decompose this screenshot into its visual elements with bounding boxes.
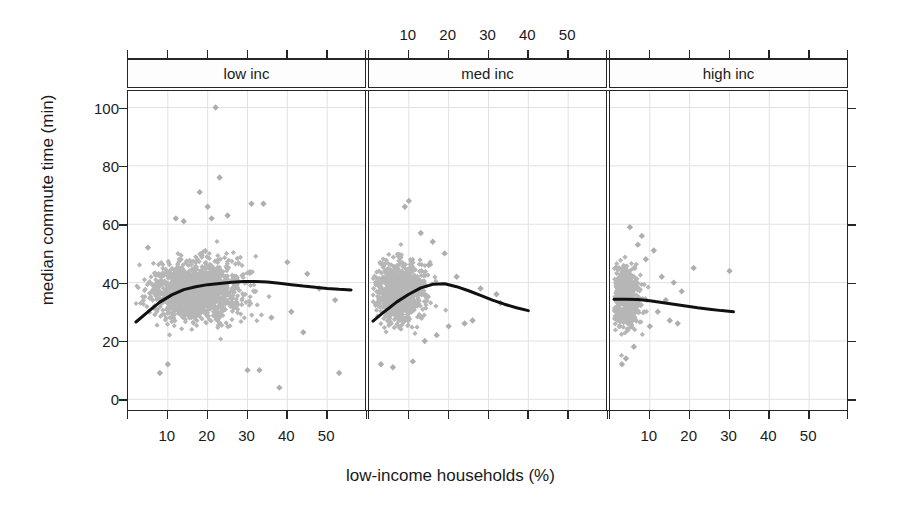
bottom-tick-mark [768, 411, 769, 419]
y-tick-mark-right [848, 166, 856, 167]
top-tick-mark [609, 50, 610, 58]
panel-low-inc [127, 90, 366, 411]
top-tick-mark [527, 50, 528, 58]
top-x-tick-label: 50 [559, 26, 576, 43]
top-x-tick-label: 40 [519, 26, 536, 43]
bottom-x-tick-label: 10 [158, 427, 175, 444]
top-tick-mark [649, 50, 650, 58]
bottom-tick-mark [609, 411, 610, 419]
top-axis-line [127, 58, 848, 60]
panel-strip-high-inc: high inc [609, 58, 848, 88]
bottom-tick-mark [847, 411, 848, 419]
y-tick-mark-left [119, 108, 127, 109]
panel-med-inc [368, 90, 607, 411]
bottom-tick-mark [247, 411, 248, 419]
bottom-tick-mark [408, 411, 409, 419]
top-tick-mark [729, 50, 730, 58]
top-tick-mark [368, 50, 369, 58]
bottom-x-axis: 10203040501020304050 [0, 427, 901, 449]
y-tick-mark-left [119, 166, 127, 167]
y-tick-label: 40 [81, 274, 119, 291]
top-tick-mark [689, 50, 690, 58]
top-tick-mark [286, 50, 287, 58]
chart-figure: median commute time (min) low-income hou… [0, 0, 901, 508]
panel-strip-label: high inc [703, 65, 755, 82]
x-axis-title: low-income households (%) [0, 466, 901, 486]
y-tick-label: 100 [81, 99, 119, 116]
bottom-x-tick-label: 40 [278, 427, 295, 444]
panel-strip-label: low inc [224, 65, 270, 82]
bottom-x-tick-label: 50 [800, 427, 817, 444]
panel-strip-med-inc: med inc [368, 58, 607, 88]
panel-high-inc [609, 90, 848, 411]
top-tick-mark [448, 50, 449, 58]
bottom-tick-mark [368, 411, 369, 419]
bottom-tick-mark [808, 411, 809, 419]
panel-strip-low-inc: low inc [127, 58, 366, 88]
y-axis-title: median commute time (min) [38, 40, 58, 360]
bottom-tick-mark [286, 411, 287, 419]
bottom-tick-mark [167, 411, 168, 419]
bottom-x-tick-label: 10 [640, 427, 657, 444]
top-tick-mark [365, 50, 366, 58]
top-tick-mark [207, 50, 208, 58]
top-tick-mark [326, 50, 327, 58]
y-tick-label: 0 [81, 391, 119, 408]
bottom-x-tick-label: 20 [198, 427, 215, 444]
top-tick-mark [808, 50, 809, 58]
top-x-tick-label: 20 [439, 26, 456, 43]
bottom-tick-mark [207, 411, 208, 419]
y-tick-mark-right [848, 283, 856, 284]
bottom-x-tick-label: 40 [760, 427, 777, 444]
top-tick-mark [488, 50, 489, 58]
top-tick-mark [847, 50, 848, 58]
bottom-tick-mark [689, 411, 690, 419]
bottom-tick-mark [488, 411, 489, 419]
panel-strip-label: med inc [461, 65, 514, 82]
top-tick-mark [167, 50, 168, 58]
y-tick-mark-left [119, 224, 127, 225]
y-tick-mark-right [848, 341, 856, 342]
y-tick-mark-right [848, 224, 856, 225]
bottom-tick-mark [326, 411, 327, 419]
bottom-tick-mark [448, 411, 449, 419]
y-tick-mark-left [119, 399, 127, 400]
y-tick-mark-left [119, 341, 127, 342]
top-tick-mark [247, 50, 248, 58]
y-tick-mark-right [848, 399, 856, 400]
top-tick-mark [567, 50, 568, 58]
bottom-tick-mark [527, 411, 528, 419]
y-tick-mark-left [119, 283, 127, 284]
bottom-x-tick-label: 30 [238, 427, 255, 444]
y-tick-label: 80 [81, 157, 119, 174]
top-tick-mark [606, 50, 607, 58]
top-x-tick-label: 30 [479, 26, 496, 43]
bottom-x-tick-label: 30 [720, 427, 737, 444]
y-tick-label: 60 [81, 216, 119, 233]
top-tick-mark [127, 50, 128, 58]
bottom-tick-mark [127, 411, 128, 419]
bottom-x-tick-label: 50 [318, 427, 335, 444]
bottom-tick-mark [729, 411, 730, 419]
top-tick-mark [768, 50, 769, 58]
top-x-axis: 1020304050 [0, 26, 901, 48]
bottom-tick-mark [567, 411, 568, 419]
bottom-tick-mark [649, 411, 650, 419]
top-x-tick-label: 10 [399, 26, 416, 43]
y-tick-mark-right [848, 108, 856, 109]
top-tick-mark [408, 50, 409, 58]
y-tick-label: 20 [81, 332, 119, 349]
bottom-x-tick-label: 20 [680, 427, 697, 444]
